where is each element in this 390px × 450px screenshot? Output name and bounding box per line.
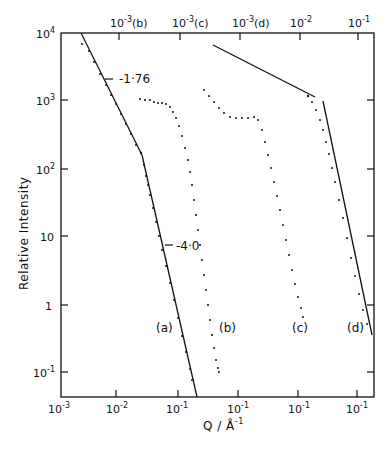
curve-label-d: (d) — [347, 321, 364, 335]
x-axis-label: Q / Å-1 — [203, 417, 244, 433]
svg-text:10-1: 10-1 — [346, 401, 368, 416]
fit-line-d-low — [213, 45, 315, 97]
svg-text:10-2: 10-2 — [290, 15, 312, 30]
fit-lines — [81, 33, 372, 397]
fit-line-a-slope-1.76 — [81, 33, 142, 155]
fit-line-d-high — [323, 101, 372, 335]
x-axis-bottom-ticks — [116, 390, 357, 397]
svg-text:10-3(c): 10-3(c) — [172, 15, 209, 30]
svg-text:1: 1 — [45, 300, 52, 313]
curve-label-a: (a) — [156, 321, 173, 335]
svg-text:10-1: 10-1 — [166, 401, 188, 416]
slope-label-1-76: -1·76 — [119, 72, 150, 86]
x-axis-top-ticks — [119, 33, 358, 40]
scattering-chart: 104 103 102 10 1 10-1 10-3 10-2 10-1 10-… — [0, 0, 390, 450]
svg-text:10-1: 10-1 — [33, 365, 55, 380]
series-b-points — [139, 98, 220, 373]
x-bottom-tick-labels: 10-3 10-2 10-1 10-1 10-1 10-1 — [48, 401, 368, 416]
svg-text:10-2: 10-2 — [106, 401, 128, 416]
svg-text:10-1: 10-1 — [288, 401, 310, 416]
svg-text:10-1: 10-1 — [348, 15, 370, 30]
svg-text:10-3(d): 10-3(d) — [232, 15, 270, 30]
svg-text:103: 103 — [36, 93, 55, 108]
slope-label-4-0: -4·0 — [176, 239, 199, 253]
svg-text:10: 10 — [40, 231, 54, 244]
svg-text:102: 102 — [36, 162, 55, 177]
series-d-points — [307, 95, 368, 325]
svg-text:10-3(b): 10-3(b) — [110, 15, 148, 30]
svg-text:10-3: 10-3 — [48, 401, 70, 416]
y-axis-ticks — [61, 100, 374, 372]
fit-line-a-slope-4 — [142, 155, 197, 397]
curve-label-c: (c) — [292, 321, 308, 335]
x-top-tick-labels: 10-3(b) 10-3(c) 10-3(d) 10-2 10-1 — [110, 15, 370, 30]
curve-label-b: (b) — [219, 321, 236, 335]
svg-text:104: 104 — [36, 26, 55, 41]
series-a-points — [81, 43, 193, 381]
y-tick-labels: 104 103 102 10 1 10-1 — [33, 26, 55, 380]
svg-text:10-1: 10-1 — [227, 401, 249, 416]
series-c-points — [203, 89, 304, 318]
y-axis-label: Relative Intensity — [17, 177, 31, 290]
